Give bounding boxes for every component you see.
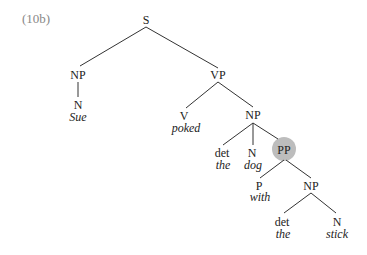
example-number: (10b) bbox=[22, 11, 50, 27]
node-np-object: NP bbox=[245, 109, 260, 121]
node-pp: PP bbox=[277, 144, 290, 156]
node-s: S bbox=[143, 14, 150, 26]
word-the-2: the bbox=[276, 228, 291, 240]
word-sue: Sue bbox=[69, 111, 86, 123]
word-with: with bbox=[250, 191, 271, 203]
word-dog: dog bbox=[244, 159, 262, 171]
word-poked: poked bbox=[172, 122, 201, 134]
word-stick: stick bbox=[326, 228, 348, 240]
word-the-1: the bbox=[216, 159, 231, 171]
node-np-pp: NP bbox=[303, 180, 318, 192]
node-np-subject: NP bbox=[70, 69, 85, 81]
node-vp: VP bbox=[210, 69, 225, 81]
